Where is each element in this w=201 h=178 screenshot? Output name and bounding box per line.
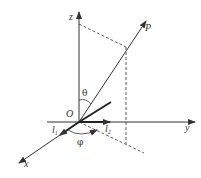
point-p-label: P (144, 22, 151, 33)
dashed-xy-projection (79, 122, 144, 153)
z-axis-label: z (68, 11, 73, 22)
l1-label: l1 (52, 124, 58, 136)
origin-label: O (66, 108, 73, 119)
spherical-coordinates-diagram: z y x P O θ φ l1 l2 (0, 0, 201, 178)
thick-vector (79, 102, 111, 122)
theta-arc (79, 100, 91, 105)
l1-vector (60, 122, 79, 135)
phi-label: φ (77, 137, 83, 147)
op-line (79, 21, 146, 122)
theta-label: θ (82, 88, 87, 98)
y-axis-label: y (184, 122, 190, 133)
dashed-z-projection (79, 24, 126, 47)
phi-arc (68, 130, 97, 134)
l2-label: l2 (105, 123, 111, 135)
x-axis-label: x (23, 158, 29, 169)
